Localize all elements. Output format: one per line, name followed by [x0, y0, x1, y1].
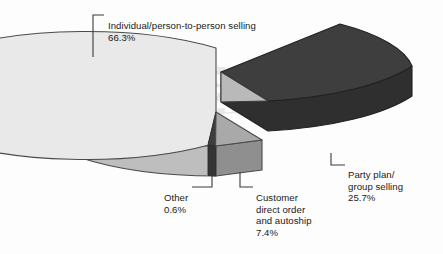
pie-chart-figure: ▁▃▂▅▃▂▄▁▃▅▂▃▄▁▂▅▃▁▄▂▃▅▂▄▁▃▅▂▄▃▁▅▂▃▄▁▂▃▅▄…: [0, 0, 443, 254]
label-party-percent: 25.7%: [348, 192, 403, 203]
leader-line-customer: [240, 172, 253, 187]
slice-other-side-wall: [208, 145, 216, 176]
label-other-percent: 0.6%: [164, 204, 188, 215]
label-party-plan: Party plan/ group selling 25.7%: [348, 158, 403, 215]
leader-line-party: [331, 153, 345, 165]
label-customer-text: Customer direct order and autoship: [256, 192, 312, 226]
leader-line-other: [192, 175, 212, 187]
label-other-text: Other: [164, 192, 188, 203]
label-individual-percent: 66.3%: [108, 32, 256, 43]
label-customer-direct-order: Customer direct order and autoship 7.4%: [256, 181, 312, 249]
label-individual-selling: Individual/person-to-person selling 66.3…: [108, 9, 256, 55]
label-other: Other 0.6%: [164, 181, 188, 227]
label-party-text: Party plan/ group selling: [348, 169, 403, 191]
label-individual-text: Individual/person-to-person selling: [108, 20, 256, 31]
label-customer-percent: 7.4%: [256, 227, 312, 238]
